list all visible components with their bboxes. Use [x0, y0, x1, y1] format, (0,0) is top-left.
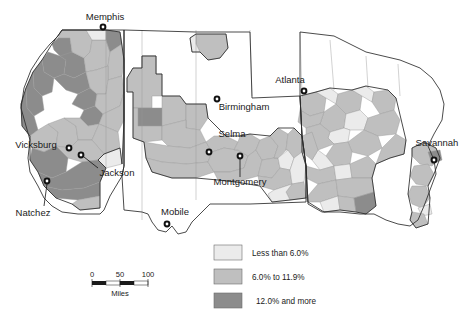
scale-tick-50: 50: [116, 270, 124, 279]
city-label-jackson: Jackson: [100, 167, 135, 178]
city-marker-vicksburg[interactable]: [66, 145, 73, 152]
city-dot-center-icon: [46, 180, 49, 183]
legend-label-low: Less than 6.0%: [252, 249, 308, 258]
scale-segment-empty: [134, 281, 148, 285]
city-label-vicksburg: Vicksburg: [15, 139, 57, 150]
city-marker-atlanta[interactable]: [301, 88, 308, 95]
legend-swatch-low: [214, 245, 242, 260]
city-marker-memphis[interactable]: [100, 24, 107, 31]
legend-swatch-mid: [214, 269, 242, 284]
city-marker-selma[interactable]: [206, 149, 213, 156]
city-marker-montgomery[interactable]: [237, 153, 244, 160]
city-label-birmingham: Birmingham: [219, 101, 270, 112]
legend-label-high: 12.0% and more: [256, 297, 317, 306]
legend-item-high[interactable]: 12.0% and more: [214, 293, 317, 308]
county-shape-low: [334, 164, 352, 180]
city-marker-mobile[interactable]: [164, 221, 171, 228]
city-marker-savannah[interactable]: [431, 157, 438, 164]
city-label-savannah: Savannah: [416, 137, 459, 148]
county-shape-mid: [127, 56, 162, 108]
city-dot-center-icon: [239, 155, 242, 158]
scale-segment-filled: [92, 281, 106, 285]
scale-segment-filled: [120, 281, 134, 285]
city-label-montgomery: Montgomery: [214, 176, 267, 187]
city-dot-center-icon: [303, 90, 306, 93]
county-shape-mid: [196, 34, 228, 60]
scale-segment-empty: [106, 281, 120, 285]
legend-swatch-high: [214, 293, 242, 308]
city-label-mobile: Mobile: [161, 206, 189, 217]
city-dot-center-icon: [102, 26, 105, 29]
legend-item-low[interactable]: Less than 6.0%: [214, 245, 308, 260]
city-marker-jackson[interactable]: [78, 152, 85, 159]
county-shape-high: [138, 108, 162, 126]
scale-bar: 0 50 100 Miles: [90, 270, 154, 298]
choropleth-map: Memphis Vicksburg Jackson Natchez Mobile…: [0, 0, 467, 327]
county-shape-mid: [338, 196, 356, 212]
city-dot-center-icon: [80, 154, 83, 157]
county-shape-mid: [408, 186, 430, 208]
legend: Less than 6.0% 6.0% to 11.9% 12.0% and m…: [214, 245, 317, 308]
county-shape-mid: [186, 104, 208, 130]
city-label-memphis: Memphis: [86, 11, 125, 22]
city-label-selma: Selma: [219, 128, 247, 139]
city-dot-center-icon: [216, 98, 219, 101]
scale-tick-0: 0: [90, 270, 94, 279]
county-shape-mid: [410, 164, 434, 186]
legend-item-mid[interactable]: 6.0% to 11.9%: [214, 269, 305, 284]
city-dot-center-icon: [433, 159, 436, 162]
scale-units-label: Miles: [111, 289, 129, 298]
legend-label-mid: 6.0% to 11.9%: [252, 273, 305, 282]
city-marker-natchez[interactable]: [44, 178, 51, 185]
city-dot-center-icon: [68, 147, 71, 150]
city-label-natchez: Natchez: [16, 207, 51, 218]
map-page: Memphis Vicksburg Jackson Natchez Mobile…: [0, 0, 467, 327]
city-dot-center-icon: [208, 151, 211, 154]
county-shape-mid: [350, 156, 376, 178]
scale-tick-100: 100: [142, 270, 155, 279]
city-dot-center-icon: [166, 223, 169, 226]
city-label-atlanta: Atlanta: [275, 74, 305, 85]
